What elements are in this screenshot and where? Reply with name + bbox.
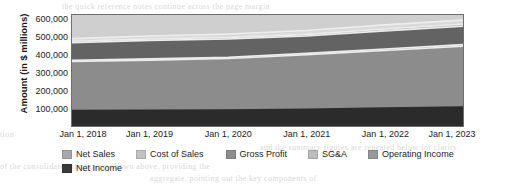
y-axis-tick-label: 500,000	[24, 32, 68, 42]
y-axis-tick-labels: 100,000200,000300,000400,000500,000600,0…	[24, 8, 68, 128]
legend-item-sg-a[interactable]: SG&A	[308, 149, 347, 159]
area-series-canvas	[72, 15, 463, 126]
legend-item-net-sales[interactable]: Net Sales	[62, 149, 115, 159]
legend-swatch-icon	[308, 150, 318, 159]
plot-area	[71, 14, 464, 127]
legend-item-label: Net Sales	[76, 149, 115, 159]
legend-item-label: Operating Income	[382, 149, 454, 159]
legend-row-primary: Net SalesCost of SalesGross ProfitSG&AOp…	[62, 147, 482, 161]
x-axis-tick-label: Jan 1, 2023	[428, 129, 475, 139]
x-axis-tick-label: Jan 1, 2022	[362, 129, 409, 139]
legend-item-gross-profit[interactable]: Gross Profit	[226, 149, 288, 159]
legend-item-label: Cost of Sales	[150, 149, 204, 159]
y-axis-tick-label: 300,000	[24, 68, 68, 78]
legend-item-operating-income[interactable]: Operating Income	[368, 149, 454, 159]
stacked-area-chart: Amount (in $ millions) 100,000200,000300…	[0, 0, 506, 186]
legend-swatch-icon	[62, 150, 72, 159]
x-axis-tick-label: Jan 1, 2019	[126, 129, 173, 139]
legend-item-label: Gross Profit	[240, 149, 288, 159]
legend-item-net-income[interactable]: Net Income	[62, 163, 122, 173]
y-axis-tick-label: 600,000	[24, 14, 68, 24]
legend-swatch-icon	[226, 150, 236, 159]
x-axis-tick-label: Jan 1, 2020	[205, 129, 252, 139]
legend-item-label: SG&A	[322, 149, 347, 159]
legend-item-cost-of-sales[interactable]: Cost of Sales	[136, 149, 204, 159]
y-axis-tick-label: 100,000	[24, 104, 68, 114]
legend-swatch-icon	[62, 164, 72, 173]
legend-swatch-icon	[136, 150, 146, 159]
legend-item-label: Net Income	[76, 163, 122, 173]
x-axis-tick-labels: Jan 1, 2018Jan 1, 2019Jan 1, 2020Jan 1, …	[71, 129, 464, 143]
x-axis-tick-label: Jan 1, 2021	[283, 129, 330, 139]
chart-legend: Net SalesCost of SalesGross ProfitSG&AOp…	[62, 147, 482, 175]
x-axis-tick-label: Jan 1, 2018	[59, 129, 106, 139]
legend-row-secondary: Net Income	[62, 161, 482, 175]
legend-swatch-icon	[368, 150, 378, 159]
y-axis-tick-label: 200,000	[24, 86, 68, 96]
y-axis-tick-label: 400,000	[24, 50, 68, 60]
